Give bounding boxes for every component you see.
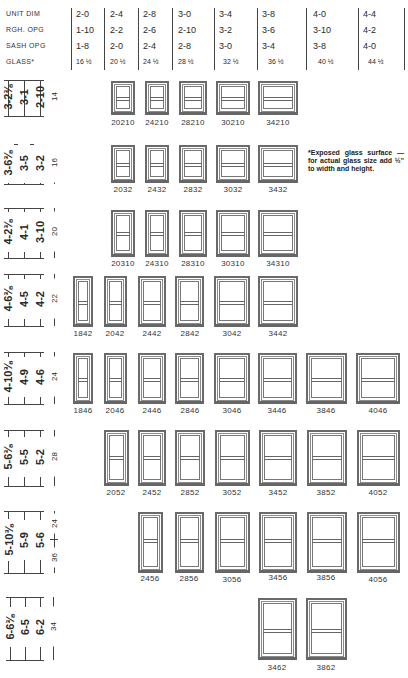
window-code: 3446	[258, 406, 296, 415]
window-34310[interactable]	[258, 210, 298, 257]
dim-line	[4, 486, 44, 487]
window-code: 3462	[258, 663, 296, 672]
window-2856[interactable]	[175, 512, 204, 573]
window-2456[interactable]	[138, 512, 163, 573]
window-2832[interactable]	[179, 145, 207, 183]
window-code: 2046	[96, 406, 134, 415]
window-3046[interactable]	[214, 353, 250, 404]
window-2046[interactable]	[104, 353, 127, 404]
window-code: 34210	[259, 118, 297, 127]
window-2852[interactable]	[175, 430, 205, 486]
window-4056[interactable]	[357, 512, 400, 573]
window-code: 3442	[259, 329, 297, 338]
row-glass: 22	[50, 279, 59, 319]
unit-dim-cell: 3-4	[219, 9, 232, 19]
window-24310[interactable]	[145, 210, 169, 257]
row-unit-dim: 5-10⅜	[3, 519, 15, 561]
glass-cell: 40 ½	[318, 58, 334, 65]
window-3056[interactable]	[215, 512, 250, 573]
sash-opg-cell: 1-8	[76, 41, 89, 51]
sash-opg-cell: 2-8	[178, 41, 191, 51]
window-3456[interactable]	[259, 512, 297, 573]
row-unit-dim: 3-2⅜	[2, 77, 14, 117]
window-code: 4046	[359, 406, 397, 415]
unit-dim-cell: 2-8	[143, 9, 156, 19]
window-2042[interactable]	[104, 276, 127, 327]
sash-opg-cell: 4-0	[363, 41, 376, 51]
row-unit-dim: 5-6⅜	[2, 437, 14, 477]
window-2452[interactable]	[138, 430, 166, 486]
window-code: 2452	[133, 488, 171, 497]
sash-opg-cell: 3-8	[313, 41, 326, 51]
column-divider	[358, 8, 359, 70]
window-2442[interactable]	[138, 276, 166, 327]
row-sash-opg: 6-2	[34, 607, 46, 647]
unit-dim-cell: 3-0	[178, 9, 191, 19]
window-3052[interactable]	[215, 430, 250, 486]
row-rgh-opg: 4-1	[18, 212, 30, 252]
window-4052[interactable]	[357, 430, 400, 486]
dim-line	[6, 660, 44, 661]
row-rgh-opg: 6-5	[19, 607, 31, 647]
window-code: 24310	[138, 259, 176, 268]
row-sash-opg: 4-6	[34, 357, 46, 397]
window-2032[interactable]	[111, 145, 135, 183]
row-glass: 34	[49, 607, 58, 647]
window-3042[interactable]	[214, 276, 250, 327]
row-unit-dim: 4-10⅜	[2, 357, 14, 397]
unit-dim-cell: 2-0	[76, 9, 89, 19]
window-2846[interactable]	[175, 353, 204, 404]
window-28210[interactable]	[179, 81, 207, 115]
window-code: 3856	[307, 573, 345, 582]
dim-line	[50, 539, 58, 540]
row-glass: 14	[50, 77, 59, 117]
column-divider	[257, 8, 258, 70]
window-3852[interactable]	[307, 430, 347, 486]
window-1846[interactable]	[73, 353, 93, 404]
window-20210[interactable]	[111, 81, 135, 115]
column-divider	[71, 8, 72, 70]
row-glass: 24	[50, 357, 59, 397]
window-3446[interactable]	[258, 353, 297, 404]
window-2446[interactable]	[138, 353, 166, 404]
window-code: 24210	[138, 118, 176, 127]
glass-cell: 24 ½	[143, 58, 159, 65]
window-3856[interactable]	[307, 512, 347, 573]
dim-line	[4, 326, 44, 327]
window-28310[interactable]	[179, 210, 207, 257]
window-24210[interactable]	[145, 81, 169, 115]
rgh-opg-cell: 2-2	[110, 25, 123, 35]
window-3452[interactable]	[259, 430, 297, 486]
window-1842[interactable]	[73, 276, 93, 327]
window-4046[interactable]	[356, 353, 400, 404]
window-code: 4052	[359, 488, 397, 497]
window-2842[interactable]	[175, 276, 204, 327]
row-sash-opg: 5-2	[34, 437, 46, 477]
window-3442[interactable]	[258, 276, 298, 327]
window-30310[interactable]	[216, 210, 250, 257]
window-20310[interactable]	[111, 210, 135, 257]
dim-line	[4, 352, 44, 353]
window-3432[interactable]	[258, 145, 298, 183]
window-code: 4056	[359, 575, 397, 584]
window-34210[interactable]	[258, 81, 298, 115]
window-code: 3452	[259, 488, 297, 497]
row-sash-opg: 2-10	[34, 77, 46, 117]
window-2052[interactable]	[104, 430, 129, 486]
row-unit-dim: 4-2⅜	[2, 212, 14, 252]
column-divider	[104, 8, 105, 70]
rgh-opg-cell: 4-2	[363, 25, 376, 35]
window-3032[interactable]	[216, 145, 250, 183]
column-divider	[172, 8, 173, 70]
window-3846[interactable]	[306, 353, 347, 404]
window-2432[interactable]	[145, 145, 169, 183]
row-glass: 36	[50, 548, 59, 568]
window-30210[interactable]	[216, 81, 250, 115]
dim-line	[4, 404, 44, 405]
unit-dim-cell: 2-4	[110, 9, 123, 19]
window-code: 3862	[307, 663, 345, 672]
window-code: 3042	[213, 329, 251, 338]
window-3862[interactable]	[306, 598, 347, 660]
window-3462[interactable]	[258, 598, 297, 660]
glass-label: GLASS*	[6, 58, 34, 65]
